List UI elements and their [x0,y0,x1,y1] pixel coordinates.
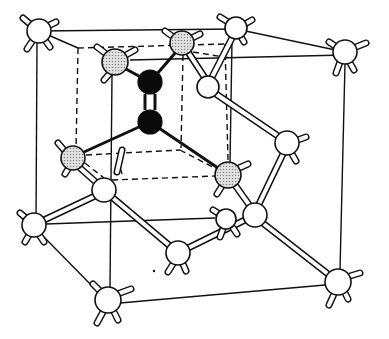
atom-black-dimer [138,70,162,94]
atom-shaded [170,31,194,55]
atom-white [197,76,219,98]
atom-white [225,17,247,39]
atom-white [166,241,190,265]
atom-white [243,203,267,227]
atom-shaded [102,49,128,75]
lattice-bonds [44,38,328,274]
atom-shaded [61,146,85,170]
atom-white [275,131,299,155]
atom-shaded [215,162,241,188]
atom-white [325,269,351,295]
atoms [22,17,357,313]
atom-white [27,19,51,43]
atom-white [22,213,46,237]
atom-white [216,209,236,229]
stray-dot [153,270,155,272]
crystal-lattice-diagram [0,0,389,339]
atom-black-dimer [138,110,162,134]
atom-white [92,178,116,202]
atom-white [95,287,121,313]
atom-white [333,40,357,64]
